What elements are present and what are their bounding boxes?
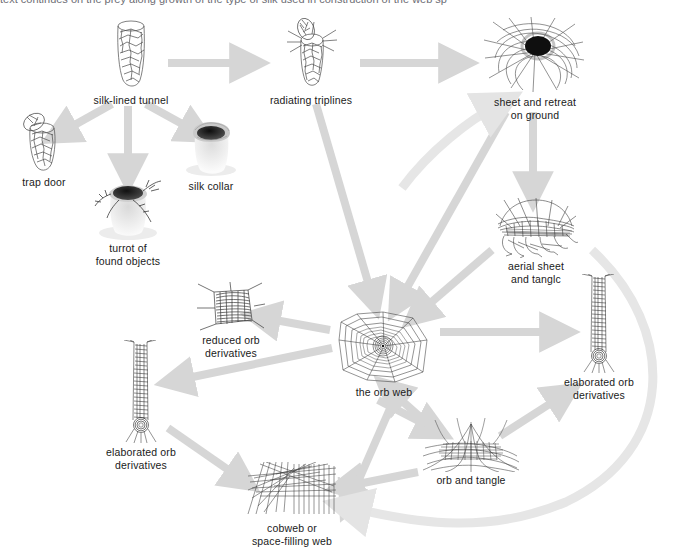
node-cobweb[interactable]: cobweb or space-filling web [243, 462, 341, 547]
orb-and-tangle-icon [421, 418, 521, 472]
node-the-orb-web[interactable]: the orb web [336, 310, 432, 399]
turret-icon [89, 178, 167, 240]
arrow-e9 [316, 104, 372, 296]
silk-lined-tunnel-icon [108, 18, 154, 92]
cobweb-icon [246, 462, 338, 520]
ladder-web-icon [578, 274, 620, 374]
node-silk-collar[interactable]: silk collar [176, 120, 246, 193]
orb-web-icon [337, 310, 431, 384]
node-label: elaborated orb derivatives [93, 446, 189, 471]
node-label: silk-lined tunnel [92, 94, 170, 107]
node-elaborated-orb-left[interactable]: elaborated orb derivatives [93, 340, 189, 471]
node-orb-and-tangle[interactable]: orb and tangle [418, 418, 524, 487]
radiating-triplines-icon [282, 18, 340, 92]
node-label: turrot of found objects [80, 242, 176, 267]
node-label: elaborated orb derivatives [551, 376, 647, 401]
node-label: cobweb or space-filling web [243, 522, 341, 547]
trap-door-icon [18, 112, 70, 174]
node-turret-found-objects[interactable]: turrot of found objects [80, 178, 176, 267]
reduced-orb-icon [196, 282, 266, 332]
arrow-e10 [264, 318, 330, 330]
arrow-e19 [350, 404, 392, 500]
node-label: the orb web [336, 386, 432, 399]
node-label: trap door [8, 176, 80, 189]
aerial-sheet-icon [490, 196, 582, 258]
node-silk-lined-tunnel[interactable]: silk-lined tunnel [92, 18, 170, 107]
node-trap-door[interactable]: trap door [8, 112, 80, 189]
node-aerial-sheet-tangle[interactable]: aerial sheet and tanglc [488, 196, 584, 285]
arrow-e8 [420, 250, 492, 312]
node-label: radiating triplines [268, 94, 354, 107]
node-label: sheet and retreat on ground [480, 96, 590, 121]
node-radiating-triplines[interactable]: radiating triplines [268, 18, 354, 107]
ladder-web-icon [120, 340, 162, 444]
silk-collar-icon [179, 120, 243, 178]
node-label: orb and tangle [418, 474, 524, 487]
sheet-and-retreat-icon [483, 16, 587, 94]
node-elaborated-orb-right[interactable]: elaborated orb derivatives [551, 274, 647, 401]
node-label: silk collar [176, 180, 246, 193]
node-label: reduced orb derivatives [190, 334, 272, 359]
diagram-canvas: text continues on the prey along growth … [0, 0, 683, 560]
node-reduced-orb[interactable]: reduced orb derivatives [190, 282, 272, 359]
node-sheet-and-retreat[interactable]: sheet and retreat on ground [480, 16, 590, 121]
